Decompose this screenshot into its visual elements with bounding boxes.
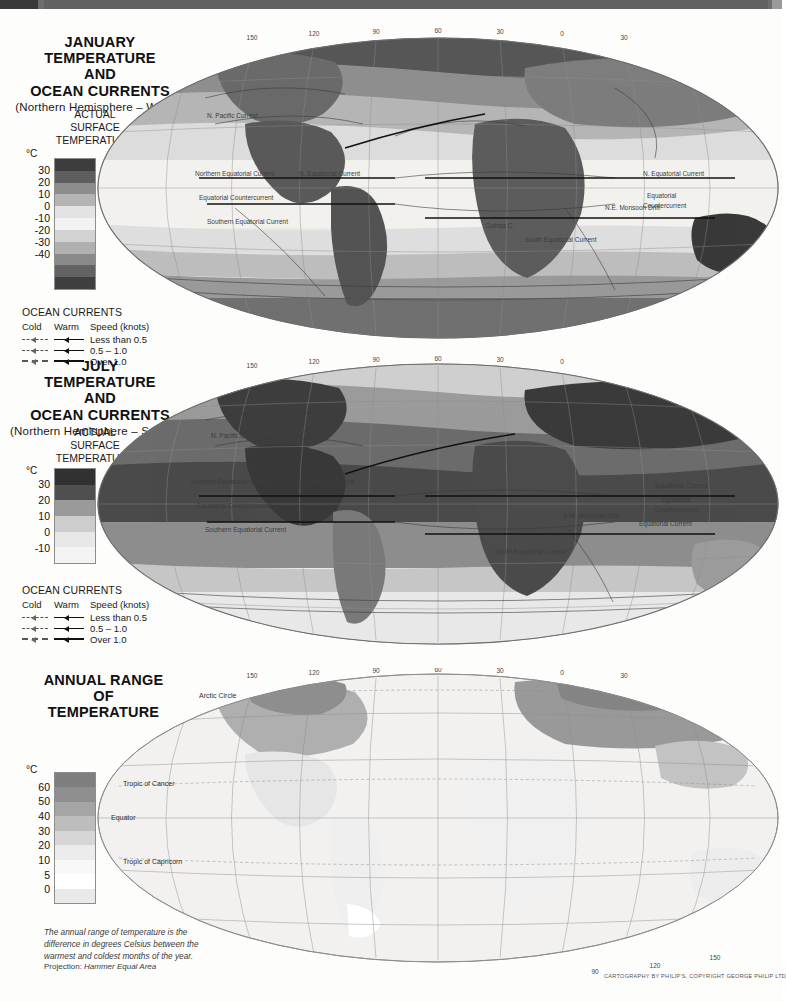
- map-label-equator: Equator: [111, 814, 136, 822]
- scale-tick-label: -10: [35, 543, 50, 554]
- scale-tick-label: 30: [38, 165, 50, 176]
- current-label: N. Equatorial Current: [293, 478, 354, 486]
- color-ramp-july: [54, 468, 96, 564]
- svg-text:60: 60: [434, 28, 442, 34]
- svg-text:0: 0: [560, 358, 564, 365]
- current-label: Equatorial Countercurrent: [199, 194, 274, 202]
- svg-text:120: 120: [650, 962, 661, 969]
- color-swatch: [55, 874, 95, 888]
- color-swatch: [55, 218, 95, 230]
- color-swatch: [55, 254, 95, 266]
- current-label: Northern Equatorial Current: [195, 170, 275, 178]
- current-label: N. Pacific Current: [207, 112, 258, 119]
- key-column-warm: Warm: [54, 599, 84, 610]
- warm-current-arrow-icon: [54, 614, 84, 622]
- scale-tick-label: 60: [38, 782, 50, 793]
- svg-text:30: 30: [620, 672, 628, 679]
- current-label: S.W. Monsoon Drift: [563, 512, 619, 519]
- svg-text:90: 90: [372, 28, 380, 35]
- svg-text:120: 120: [309, 358, 320, 365]
- legend-scale-january: 3020100-10-20-30-40: [18, 158, 50, 290]
- scan-edge-right: [772, 0, 782, 9]
- svg-text:150: 150: [247, 362, 258, 369]
- svg-text:90: 90: [372, 668, 380, 674]
- color-swatch: [55, 242, 95, 254]
- svg-text:90: 90: [372, 356, 380, 363]
- color-swatch: [55, 547, 95, 563]
- legend-scale-july: 3020100-10: [18, 468, 50, 564]
- map-panel-annual-range: ANNUAL RANGE OF TEMPERATURE °C 605040302…: [0, 660, 782, 1001]
- color-swatch: [55, 516, 95, 532]
- map-canvas: 15012090 60300 N. Pacific Current Northe…: [95, 356, 782, 654]
- cold-current-arrow-icon: [22, 336, 48, 344]
- current-label: N. Pacific Current: [211, 432, 262, 439]
- map-panel-january: JANUARY TEMPERATURE AND OCEAN CURRENTS (…: [0, 20, 782, 350]
- map-canvas: 15012090 60300 30 N. Pacific Current Nor…: [95, 28, 782, 350]
- key-column-cold: Cold: [22, 599, 48, 610]
- scale-tick-label: -30: [35, 237, 50, 248]
- key-column-cold: Cold: [22, 321, 48, 332]
- color-swatch: [55, 171, 95, 183]
- scale-tick-label: 40: [38, 811, 50, 822]
- color-swatch: [55, 889, 95, 903]
- warm-current-arrow-icon: [54, 625, 84, 633]
- world-map-annual-range[interactable]: 15012090 60300 30 90120150 Arctic Circle…: [95, 668, 782, 980]
- world-map-july[interactable]: 15012090 60300 N. Pacific Current Northe…: [95, 356, 782, 654]
- current-label: Southern Equatorial Current: [205, 526, 286, 534]
- current-label: N. Equatorial Current: [643, 170, 704, 178]
- cold-current-arrow-icon: [22, 636, 48, 644]
- scale-tick-label: 0: [44, 884, 50, 895]
- scale-tick-label: 10: [38, 855, 50, 866]
- legend-scale-annual: 60504030201050: [18, 772, 50, 904]
- color-swatch: [55, 183, 95, 195]
- svg-text:150: 150: [247, 672, 258, 679]
- color-swatch: [55, 532, 95, 548]
- current-label: Equatorial: [661, 496, 691, 504]
- map-label-arctic-circle: Arctic Circle: [199, 692, 236, 699]
- svg-text:30: 30: [620, 34, 628, 41]
- color-swatch: [55, 159, 95, 171]
- scale-tick-label: 30: [38, 826, 50, 837]
- color-swatch: [55, 802, 95, 816]
- scale-tick-label: -40: [35, 249, 50, 260]
- warm-current-arrow-icon: [54, 336, 84, 344]
- svg-text:150: 150: [247, 34, 258, 41]
- svg-text:0: 0: [560, 30, 564, 37]
- current-label: South Equatorial Current: [525, 236, 597, 244]
- scale-tick-label: 50: [38, 796, 50, 807]
- color-swatch: [55, 831, 95, 845]
- svg-text:30: 30: [496, 28, 504, 35]
- color-ramp-annual: [54, 772, 96, 904]
- color-swatch: [55, 265, 95, 277]
- world-map-january[interactable]: 15012090 60300 30 N. Pacific Current Nor…: [95, 28, 782, 350]
- color-swatch: [55, 206, 95, 218]
- svg-text:0: 0: [560, 669, 564, 676]
- scale-tick-label: 0: [44, 201, 50, 212]
- key-column-warm: Warm: [54, 321, 84, 332]
- svg-text:120: 120: [309, 30, 320, 37]
- scale-tick-label: 20: [38, 495, 50, 506]
- cold-current-arrow-icon: [22, 625, 48, 633]
- map-label-tropic-of-capricorn: Tropic of Capricorn: [123, 858, 182, 866]
- svg-text:60: 60: [434, 668, 442, 673]
- warm-current-arrow-icon: [54, 636, 84, 644]
- color-swatch: [55, 277, 95, 289]
- color-swatch: [55, 816, 95, 830]
- current-label: N. Equatorial Current: [299, 170, 360, 178]
- map-content: [95, 28, 782, 350]
- scale-tick-label: 30: [38, 479, 50, 490]
- svg-text:120: 120: [309, 669, 320, 676]
- scale-tick-label: 20: [38, 840, 50, 851]
- current-label: Equatorial Current: [655, 482, 708, 490]
- current-label: Northern Equatorial Current: [191, 478, 271, 486]
- current-label: N.E. Monsoon Drift: [605, 204, 660, 211]
- scale-tick-label: 20: [38, 177, 50, 188]
- scale-tick-label: 0: [44, 527, 50, 538]
- current-label: Equatorial Current: [639, 520, 692, 528]
- scale-tick-label: -20: [35, 225, 50, 236]
- map-label-tropic-of-cancer: Tropic of Cancer: [123, 780, 175, 788]
- current-label: Equatorial: [647, 192, 677, 200]
- scale-tick-label: 10: [38, 189, 50, 200]
- scan-artifact-bar: [0, 0, 782, 9]
- map-canvas: 15012090 60300 30 90120150 Arctic Circle…: [95, 668, 782, 980]
